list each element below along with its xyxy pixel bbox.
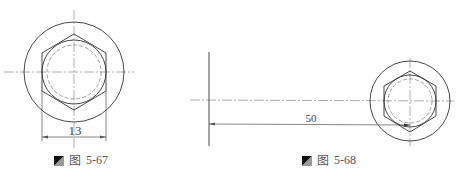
arrow-right (404, 124, 410, 127)
dimension-label: 13 (69, 123, 82, 138)
dimension-label: 50 (306, 112, 318, 124)
arrow-right (100, 136, 106, 139)
arrow-left (42, 136, 48, 139)
figure-caption-5-68: 图 5-68 (302, 152, 356, 168)
caption-number: 5-68 (334, 153, 356, 168)
figure-marker-icon (302, 155, 312, 165)
figure-5-68-drawing: 50 (190, 52, 454, 146)
horizontal-centerline (190, 100, 454, 101)
caption-prefix: 图 (317, 151, 329, 169)
arrow-left (209, 123, 215, 126)
figure-5-67-drawing: 13 (4, 10, 134, 148)
caption-prefix: 图 (69, 151, 81, 169)
caption-number: 5-67 (86, 153, 108, 168)
dimension-line (209, 124, 410, 125)
figure-caption-5-67: 图 5-67 (54, 152, 108, 168)
figure-marker-icon (54, 155, 64, 165)
